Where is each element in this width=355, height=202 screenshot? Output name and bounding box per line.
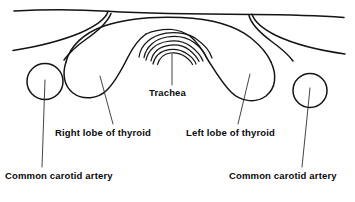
leader-line-right-lobe xyxy=(100,76,113,124)
label-right-lobe-of-thyroid: Right lobe of thyroid xyxy=(55,128,151,138)
thyroid-left-lobe-path xyxy=(190,36,275,101)
sternocleidomastoid-right-path xyxy=(252,14,345,54)
trachea-ring-inner-path xyxy=(153,49,196,64)
deep-fascia-right-path xyxy=(249,16,293,62)
leader-line-left-lobe xyxy=(238,74,250,124)
trachea-ring-middle-path xyxy=(146,41,203,61)
leader-line-carotid-right xyxy=(302,88,310,167)
label-common-carotid-artery-left: Common carotid artery xyxy=(5,171,113,181)
thyroid-cross-section-diagram: Trachea Right lobe of thyroid Left lobe … xyxy=(0,0,355,202)
label-trachea: Trachea xyxy=(149,88,186,98)
label-common-carotid-artery-right: Common carotid artery xyxy=(229,171,337,181)
leader-line-carotid-left xyxy=(42,80,45,167)
label-left-lobe-of-thyroid: Left lobe of thyroid xyxy=(186,128,275,138)
skin-outline-path xyxy=(14,10,344,18)
